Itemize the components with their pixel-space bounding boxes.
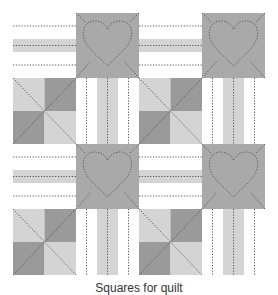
quilt-block-horizontal-stripes <box>13 13 76 78</box>
pinwheel-pattern <box>139 78 202 144</box>
quilt-block-heart <box>202 144 265 209</box>
quilt-block-heart <box>202 13 265 78</box>
quilt-block-pinwheel <box>13 78 76 144</box>
quilt-block-horizontal-stripes <box>13 144 76 209</box>
quilt-diagram <box>13 13 265 275</box>
quilt-block-vertical-stripes <box>76 78 139 144</box>
quilt-block-heart <box>76 13 139 78</box>
diagram-caption: Squares for quilt <box>0 281 278 295</box>
heart-pattern <box>202 13 265 78</box>
pinwheel-pattern <box>13 209 76 275</box>
vertical-stripes-pattern <box>202 209 265 275</box>
heart-pattern <box>76 13 139 78</box>
horizontal-stripes-pattern <box>13 144 76 209</box>
quilt-block-pinwheel <box>13 209 76 275</box>
vertical-stripes-pattern <box>76 209 139 275</box>
quilt-block-vertical-stripes <box>202 209 265 275</box>
quilt-block-pinwheel <box>139 78 202 144</box>
pinwheel-pattern <box>139 209 202 275</box>
vertical-stripes-pattern <box>202 78 265 144</box>
quilt-block-vertical-stripes <box>76 209 139 275</box>
heart-pattern <box>202 144 265 209</box>
horizontal-stripes-pattern <box>139 144 202 209</box>
horizontal-stripes-pattern <box>13 13 76 78</box>
heart-pattern <box>76 144 139 209</box>
pinwheel-pattern <box>13 78 76 144</box>
quilt-block-horizontal-stripes <box>139 13 202 78</box>
quilt-block-vertical-stripes <box>202 78 265 144</box>
quilt-block-horizontal-stripes <box>139 144 202 209</box>
quilt-block-heart <box>76 144 139 209</box>
quilt-block-pinwheel <box>139 209 202 275</box>
horizontal-stripes-pattern <box>139 13 202 78</box>
vertical-stripes-pattern <box>76 78 139 144</box>
